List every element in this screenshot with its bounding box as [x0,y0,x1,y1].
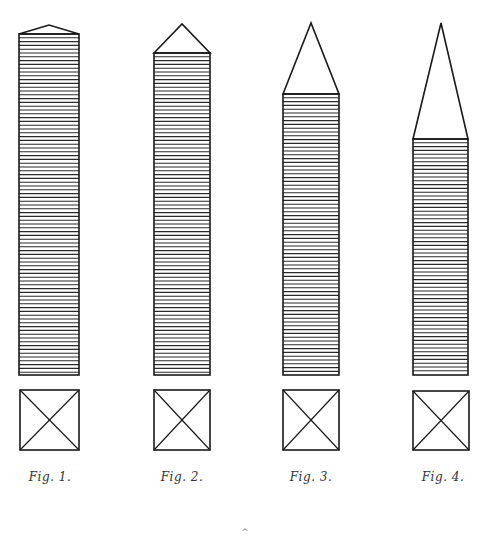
figure-3 [283,23,339,450]
shaft-hatching [413,143,468,371]
printer-caret-mark: ^ [241,527,249,537]
shaft-hatching [283,98,339,372]
pyramidal-roof-outline [283,23,339,94]
figure-2 [154,24,210,450]
pyramidal-roof-outline [154,24,210,53]
shaft-hatching [19,38,79,372]
diagram-plate [0,0,487,538]
figure-2-caption: Fig. 2. [161,470,203,484]
figure-4-caption: Fig. 4. [422,470,464,484]
figure-3-caption: Fig. 3. [290,470,332,484]
figure-1 [19,25,79,450]
figure-1-caption: Fig. 1. [29,470,71,484]
pyramidal-roof-outline [19,25,79,34]
shaft-hatching [154,57,210,372]
pyramidal-roof-outline [413,23,468,139]
figure-4 [413,23,469,450]
